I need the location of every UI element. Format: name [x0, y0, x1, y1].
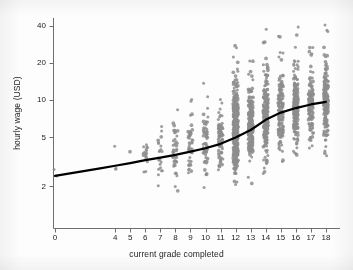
y-axis-title: hourly wage (USD) [12, 58, 22, 168]
x-tick-label-0: 0 [44, 233, 66, 242]
y-tick-label-40: 40 [24, 21, 46, 30]
x-axis-title: current grade completed [0, 249, 353, 259]
y-tick-label-20: 20 [24, 58, 46, 67]
y-tick-label-5: 5 [24, 133, 46, 142]
scatter-plot-canvas [0, 0, 353, 270]
chart-figure: 40 20 10 5 2 0456789101112131415161718 c… [0, 0, 353, 270]
y-tick-label-2: 2 [24, 182, 46, 191]
x-tick-label-18: 18 [315, 233, 337, 242]
y-tick-label-10: 10 [24, 95, 46, 104]
